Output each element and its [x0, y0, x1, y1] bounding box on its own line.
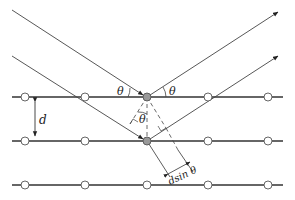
construction-lines [130, 97, 178, 150]
path-difference-label: dsin θ [166, 164, 198, 187]
bragg-diagram: θ θ θ d dsin θ [0, 0, 295, 200]
reflected-rays [147, 12, 278, 141]
right-angle-markers [130, 119, 166, 131]
theta-inner-label: θ [139, 113, 146, 126]
incident-rays [12, 10, 143, 139]
diagram-canvas: θ θ θ d dsin θ [0, 0, 295, 200]
spacing-label: d [39, 113, 47, 127]
theta-reflected-label: θ [169, 85, 176, 98]
theta-incident-label: θ [117, 85, 124, 98]
